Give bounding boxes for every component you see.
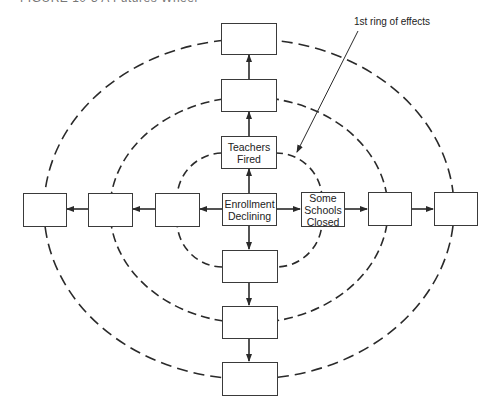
third-ring-right-box xyxy=(434,192,478,226)
third-ring-left-box xyxy=(23,193,67,227)
box-text-line: Teachers xyxy=(228,141,271,153)
second-ring-left-box xyxy=(88,193,133,227)
first-ring-right-box: Some Schools Closed xyxy=(301,192,345,227)
first-ring-bottom-box xyxy=(222,250,278,283)
box-text-line: Fired xyxy=(228,153,271,165)
third-ring-top-box xyxy=(221,23,277,55)
box-text-line: Some xyxy=(304,192,341,204)
box-text-line: Enrollment xyxy=(224,198,274,210)
second-ring-bottom-box xyxy=(222,306,278,339)
second-ring-top-box xyxy=(221,79,277,112)
first-ring-left-box xyxy=(155,193,200,227)
box-text-line: Schools xyxy=(304,204,341,216)
second-ring-right-box xyxy=(368,192,412,226)
box-text-line: Declining xyxy=(224,210,274,222)
first-ring-label: 1st ring of effects xyxy=(354,16,430,27)
box-text-line: Closed xyxy=(304,216,341,228)
first-ring-top-box: Teachers Fired xyxy=(221,136,277,169)
annotation-pointer-arrow xyxy=(297,31,358,152)
futures-wheel-diagram: FIGURE 10-3 A Futures Wheel 1 xyxy=(0,0,496,415)
third-ring-bottom-box xyxy=(222,362,278,396)
center-box: Enrollment Declining xyxy=(222,193,277,226)
